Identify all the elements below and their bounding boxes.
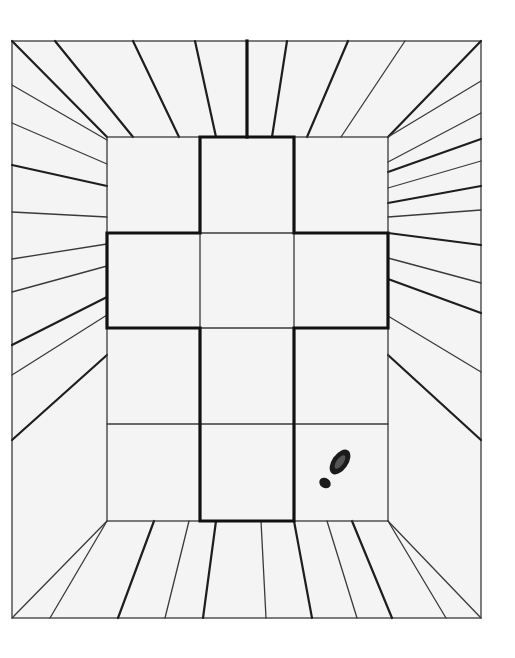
perspective-room-drawing [0, 0, 515, 658]
